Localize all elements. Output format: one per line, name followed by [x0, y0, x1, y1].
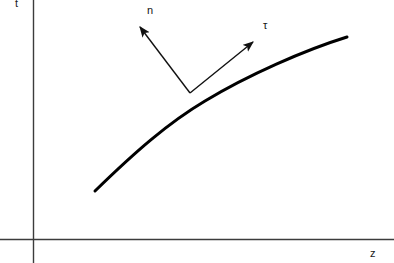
normal-vector-label: n [147, 5, 153, 16]
normal-vector-arrow [140, 27, 190, 93]
x-axis-label: z [370, 248, 376, 259]
interface-curve [95, 37, 347, 191]
figure-canvas: t z n τ [0, 0, 394, 263]
tangent-vector-arrow [190, 42, 253, 93]
tangent-vector-label: τ [263, 20, 267, 31]
diagram-svg [0, 0, 394, 263]
y-axis-label: t [15, 0, 18, 9]
